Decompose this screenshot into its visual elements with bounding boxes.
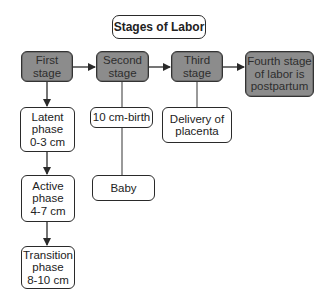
stage-first: First stage bbox=[21, 51, 73, 82]
stage-second: Second stage bbox=[96, 51, 149, 82]
stage-fourth: Fourth stage of labor is postpartum bbox=[245, 51, 314, 97]
phase-transition: Transition phase 8-10 cm bbox=[21, 246, 75, 289]
step-baby: Baby bbox=[92, 175, 155, 201]
phase-active: Active phase 4-7 cm bbox=[21, 175, 75, 222]
phase-latent: Latent phase 0-3 cm bbox=[20, 107, 75, 152]
step-delivery-of-placenta: Delivery of placenta bbox=[162, 107, 232, 143]
step-10cm-birth: 10 cm-birth bbox=[90, 107, 153, 128]
stage-third: Third stage bbox=[171, 51, 223, 82]
diagram-title: Stages of Labor bbox=[112, 15, 206, 39]
